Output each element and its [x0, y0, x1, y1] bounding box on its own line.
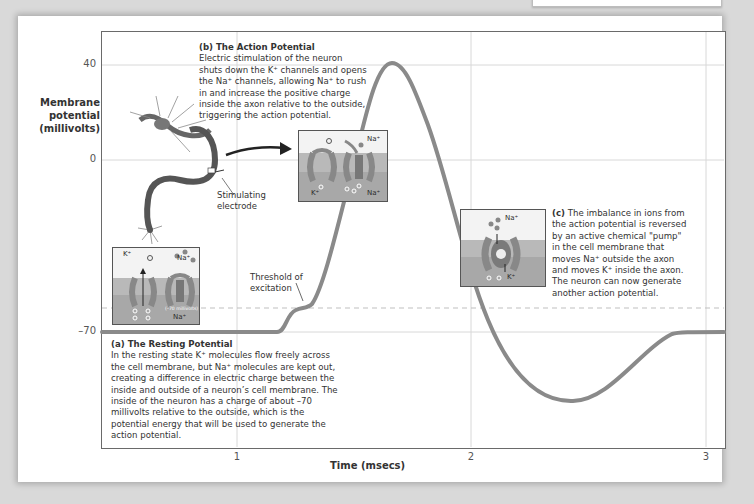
pump-text: The imbalance in ions from the action po… [552, 208, 686, 298]
pump-inset: Na⁺ K⁺ [460, 209, 546, 287]
resting-potential-title: (a) The Resting Potential [111, 339, 339, 350]
y-axis-title-line: Membrane [22, 96, 100, 109]
threshold-label-line: Threshold of [250, 272, 303, 283]
action-potential-title: (b) The Action Potential [199, 42, 367, 53]
resting-ion-channel-inset: K⁺ Na⁺ (–70 millivolts) Na⁺ [112, 247, 200, 325]
threshold-label-line: excitation [250, 283, 303, 294]
action-potential-annotation: (b) The Action Potential Electric stimul… [199, 42, 367, 122]
k-ion-label: K⁺ [311, 189, 319, 197]
na-ion-label-bottom: Na⁺ [367, 189, 380, 197]
y-axis-title: Membrane potential (millivolts) [22, 96, 100, 135]
action-potential-text: Electric stimulation of the neuron shuts… [199, 53, 367, 120]
electrode-label: Stimulating electrode [217, 190, 266, 211]
pump-title: (c) [552, 208, 565, 218]
electrode-label-line: electrode [217, 201, 266, 212]
resting-potential-annotation: (a) The Resting Potential In the resting… [111, 339, 339, 442]
pump-annotation: (c) The imbalance in ions from the actio… [552, 208, 692, 299]
k-ion-label: K⁺ [507, 273, 515, 281]
y-tick-40: 40 [66, 58, 96, 69]
threshold-label: Threshold of excitation [250, 272, 303, 293]
k-ion-label: K⁺ [123, 250, 131, 258]
y-tick-minus70: –70 [66, 325, 96, 336]
x-tick-2: 2 [461, 451, 481, 462]
millivolts-label: (–70 millivolts) [165, 306, 198, 311]
y-axis-title-line: (millivolts) [22, 122, 100, 135]
action-ion-channel-inset: Na⁺ K⁺ Na⁺ [298, 130, 388, 202]
arrow-head-icon [280, 142, 292, 155]
x-axis-title: Time (msecs) [330, 460, 405, 471]
x-tick-3: 3 [696, 451, 716, 462]
na-ion-label: Na⁺ [505, 214, 518, 222]
na-ion-label: Na⁺ [177, 254, 190, 262]
arrow-icon [226, 147, 285, 155]
y-tick-0: 0 [66, 153, 96, 164]
sodium-potassium-pump-icon [461, 210, 545, 286]
na-ion-label-top: Na⁺ [367, 135, 380, 143]
electrode-label-line: Stimulating [217, 190, 266, 201]
na-ion-label-bottom: Na⁺ [173, 313, 186, 321]
y-axis-title-line: potential [22, 109, 100, 122]
resting-potential-text: In the resting state K⁺ molecules flow f… [111, 350, 338, 440]
x-tick-1: 1 [227, 451, 247, 462]
